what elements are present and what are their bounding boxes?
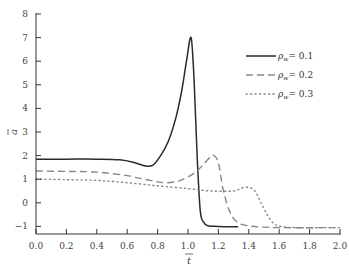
- line-chart: −10123456780.00.20.40.60.81.01.21.41.61.…: [0, 0, 349, 280]
- x-tick-label: 1.0: [181, 241, 196, 251]
- x-tick-label: 2.0: [333, 241, 348, 251]
- x-tick-label: 1.2: [211, 241, 225, 251]
- figure-caption: [0, 268, 349, 280]
- legend-item-1: ρw= 0.1: [246, 51, 313, 62]
- x-tick-label: 1.8: [302, 241, 317, 251]
- y-tick-label: 4: [22, 103, 28, 113]
- legend-item-2: ρw= 0.2: [246, 70, 313, 81]
- x-tick-label: 1.4: [242, 241, 257, 251]
- y-tick-label: 6: [22, 56, 28, 66]
- svg-text:a: a: [8, 129, 19, 135]
- x-tick-label: 0.0: [29, 241, 44, 251]
- y-tick-label: 2: [22, 151, 28, 161]
- y-tick-label: 1: [22, 174, 28, 184]
- svg-text:t: t: [187, 255, 192, 266]
- y-tick-label: −1: [15, 221, 28, 231]
- x-tick-label: 0.6: [120, 241, 135, 251]
- legend-label: ρw= 0.1: [277, 51, 313, 62]
- y-tick-label: 7: [22, 33, 28, 43]
- series-line-3: [36, 179, 340, 228]
- y-axis-label: a: [8, 129, 19, 135]
- x-tick-label: 1.6: [272, 241, 287, 251]
- series-line-1: [36, 37, 238, 227]
- legend-label: ρw= 0.2: [277, 70, 313, 81]
- x-tick-label: 0.8: [150, 241, 165, 251]
- legend-item-3: ρw= 0.3: [246, 89, 313, 100]
- x-tick-label: 0.4: [90, 241, 105, 251]
- x-tick-label: 0.2: [59, 241, 73, 251]
- legend: ρw= 0.1ρw= 0.2ρw= 0.3: [246, 51, 313, 100]
- y-tick-label: 0: [22, 198, 28, 208]
- plot-lines: [36, 37, 340, 227]
- x-axis-label: t: [185, 254, 193, 266]
- series-line-2: [36, 155, 340, 228]
- y-tick-label: 5: [22, 80, 28, 90]
- legend-label: ρw= 0.3: [277, 89, 313, 100]
- y-tick-label: 3: [22, 127, 28, 137]
- y-tick-label: 8: [22, 9, 28, 19]
